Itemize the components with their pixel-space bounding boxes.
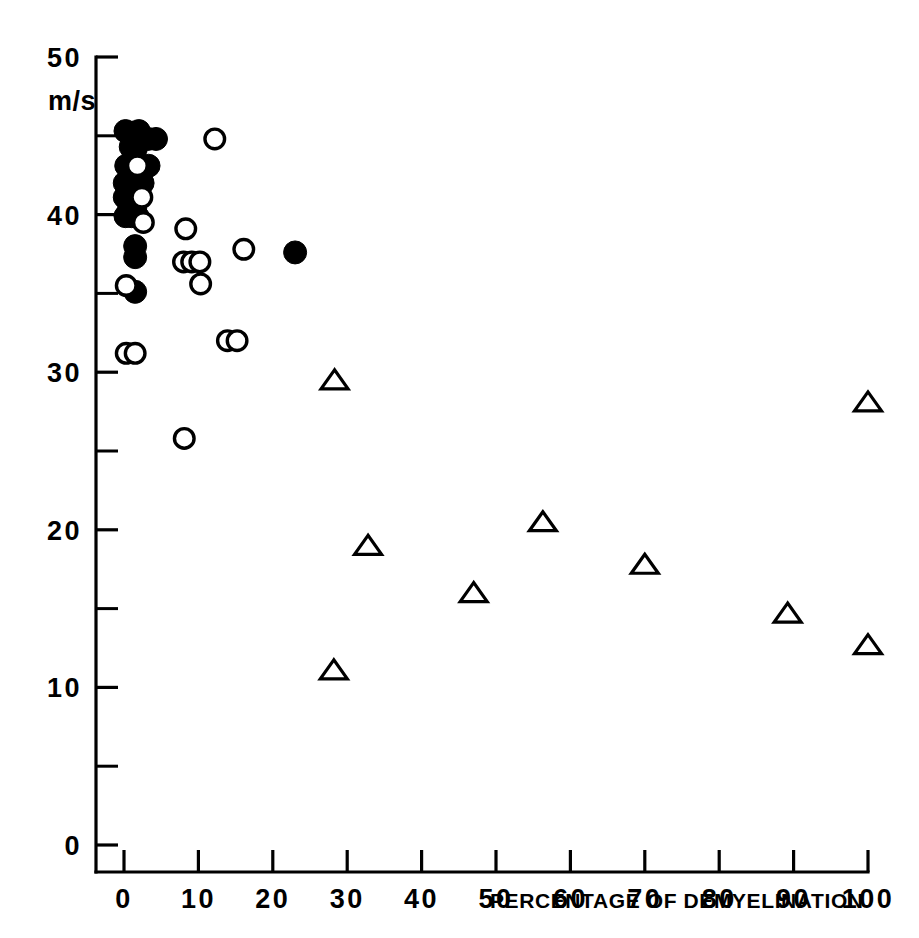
- data-point-open-triangle: [774, 603, 801, 622]
- data-point-open-circle: [116, 276, 136, 296]
- y-tick-label: 20: [47, 516, 82, 546]
- chart-canvas: 010203040500102030405060708090100 m/s PE…: [0, 0, 919, 938]
- data-point-open-circle: [234, 239, 254, 259]
- data-point-filled-circle: [284, 241, 307, 264]
- data-point-open-circle: [205, 129, 225, 149]
- data-point-open-circle: [132, 187, 152, 207]
- x-tick-label: 0: [115, 884, 133, 914]
- axis-tick-labels: 010203040500102030405060708090100: [47, 43, 894, 914]
- data-point-open-triangle: [320, 660, 347, 679]
- axis-ticks: [96, 57, 868, 872]
- data-point-open-triangle: [321, 370, 348, 389]
- data-point-open-triangle: [855, 635, 882, 654]
- data-point-open-triangle: [460, 583, 487, 602]
- y-tick-label: 10: [47, 673, 82, 703]
- data-point-open-circle: [227, 331, 247, 351]
- data-point-open-circle: [190, 252, 210, 272]
- data-point-open-circle: [174, 429, 194, 449]
- data-point-open-triangle: [855, 392, 882, 411]
- data-point-open-circle: [191, 274, 211, 294]
- y-tick-label: 40: [47, 201, 82, 231]
- data-point-open-circle: [134, 213, 154, 233]
- data-point-open-circle: [125, 343, 145, 363]
- data-point-open-circle: [176, 219, 196, 239]
- axes: [96, 57, 868, 872]
- y-tick-label: 30: [47, 358, 82, 388]
- x-tick-label: 20: [255, 884, 290, 914]
- data-point-filled-circle: [124, 246, 147, 269]
- y-axis-unit-label: m/s: [48, 86, 96, 116]
- data-point-open-triangle: [529, 512, 556, 531]
- x-axis-title: PERCENTAGE OF DEMYELINATION: [490, 889, 864, 912]
- data-point-open-circle: [128, 156, 148, 176]
- data-point-open-triangle: [355, 535, 382, 554]
- y-tick-label: 0: [64, 831, 82, 861]
- x-tick-label: 30: [330, 884, 365, 914]
- data-point-open-triangle: [631, 554, 658, 573]
- x-tick-label: 40: [404, 884, 439, 914]
- y-tick-label: 50: [47, 43, 82, 73]
- data-point-filled-circle: [144, 127, 167, 150]
- data-markers: [113, 120, 881, 679]
- scatter-plot-figure: 010203040500102030405060708090100 m/s PE…: [0, 0, 919, 938]
- x-tick-label: 10: [181, 884, 216, 914]
